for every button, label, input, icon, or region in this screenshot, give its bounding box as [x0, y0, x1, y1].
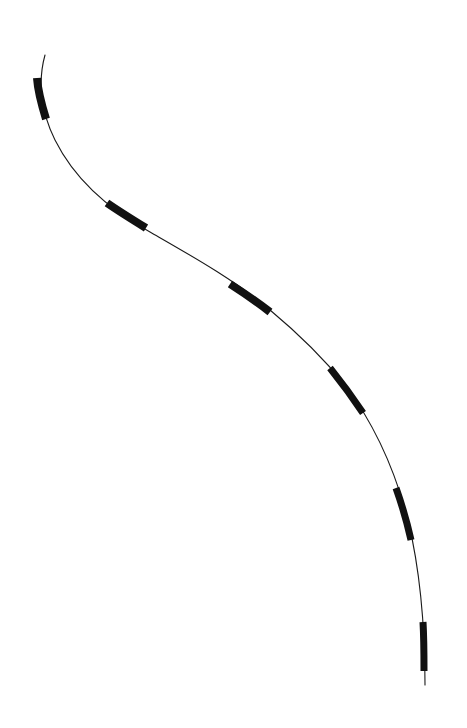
s-curve-diagram [0, 0, 467, 728]
thick-segment-6 [423, 622, 424, 671]
background [0, 0, 467, 728]
